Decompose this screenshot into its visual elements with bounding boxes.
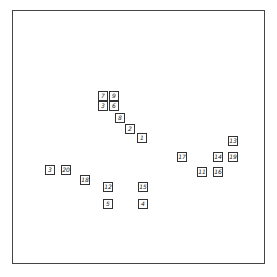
node-box: 5 [103,199,113,209]
node-box: 15 [138,182,148,192]
node-box: 3 [45,165,55,175]
node-box: 4 [138,199,148,209]
node-box: 18 [80,175,90,185]
node-box: 2 [125,124,135,134]
node-box: 3 [98,101,108,111]
node-box: 9 [109,91,119,101]
node-box: 19 [228,152,238,162]
node-box: 14 [213,152,223,162]
node-box: 6 [109,101,119,111]
node-box: 12 [103,182,113,192]
node-box: 13 [228,136,238,146]
node-box: 16 [213,167,223,177]
node-box: 17 [177,152,187,162]
node-box: 8 [115,113,125,123]
node-box: 11 [197,167,207,177]
node-box: 7 [98,91,108,101]
node-box: 1 [137,133,147,143]
node-box: 20 [61,165,71,175]
